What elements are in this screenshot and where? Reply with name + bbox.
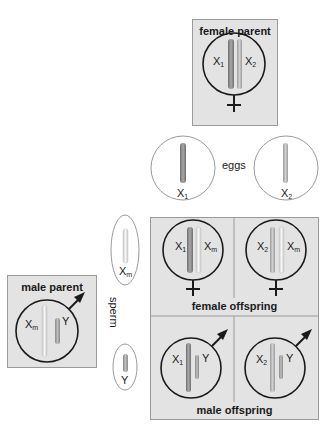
sperm-y-label: Y: [121, 375, 128, 386]
male-symbol-icon: [212, 329, 228, 346]
female-parent-x1-label: X1: [213, 56, 224, 70]
male-parent-y-label: Y: [62, 316, 69, 327]
egg-x1-label: X1: [177, 188, 188, 202]
sperm-xm-label: Xm: [119, 266, 132, 280]
female-symbol-icon: [186, 280, 200, 296]
male-symbol-icon: [69, 292, 85, 309]
fo1-x1-label: X1: [175, 241, 186, 255]
female-offspring-1: [163, 220, 223, 296]
male-symbol-icon: [296, 329, 312, 346]
female-parent-cell: [203, 33, 265, 112]
sperm-label: sperm: [108, 297, 120, 328]
mo1-x1-label: X1: [172, 354, 183, 368]
male-offspring-label: male offspring: [150, 404, 319, 416]
female-symbol-icon: [227, 95, 241, 112]
fo2-x2-label: X2: [257, 241, 268, 255]
fo2-xm-label: Xm: [287, 241, 300, 255]
female-offspring-label: female offspring: [150, 300, 319, 312]
mo2-x2-label: X2: [256, 354, 267, 368]
female-offspring-2: [246, 220, 306, 296]
egg-x2-label: X2: [281, 188, 292, 202]
mo1-y-label: Y: [202, 353, 209, 364]
male-parent-xm-label: Xm: [25, 319, 38, 333]
female-parent-x2-label: X2: [245, 56, 256, 70]
fo1-xm-label: Xm: [204, 241, 217, 255]
mo2-y-label: Y: [286, 353, 293, 364]
female-symbol-icon: [269, 280, 283, 296]
diagram-graphics: [0, 0, 335, 426]
eggs-label: eggs: [222, 159, 246, 171]
